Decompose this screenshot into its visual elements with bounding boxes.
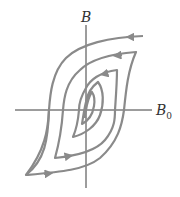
arrow-icon bbox=[104, 73, 108, 74]
arrow-icon bbox=[117, 55, 122, 56]
hysteresis-diagram: B B0 bbox=[0, 0, 180, 197]
hysteresis-loop-outer bbox=[26, 36, 143, 175]
y-axis-label: B bbox=[80, 9, 91, 25]
x-axis-label: B0 bbox=[155, 102, 172, 121]
arrow-icon bbox=[64, 156, 69, 157]
hysteresis-loop-outer-return bbox=[26, 110, 49, 175]
arrow-icon bbox=[44, 174, 49, 175]
